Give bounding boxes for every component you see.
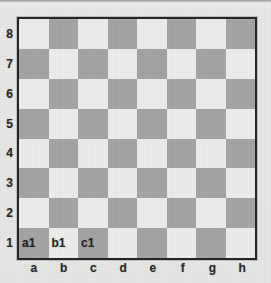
square-d3[interactable] bbox=[108, 168, 138, 198]
square-g1[interactable] bbox=[196, 228, 226, 258]
rank-labels: 87654321 bbox=[0, 19, 19, 258]
square-g7[interactable] bbox=[196, 49, 226, 79]
square-a2[interactable] bbox=[19, 198, 49, 228]
square-c6[interactable] bbox=[78, 79, 108, 109]
square-d4[interactable] bbox=[108, 139, 138, 169]
square-f6[interactable] bbox=[167, 79, 197, 109]
square-e4[interactable] bbox=[137, 139, 167, 169]
square-c7[interactable] bbox=[78, 49, 108, 79]
square-e6[interactable] bbox=[137, 79, 167, 109]
square-d8[interactable] bbox=[108, 19, 138, 49]
square-e2[interactable] bbox=[137, 198, 167, 228]
square-a5[interactable] bbox=[19, 109, 49, 139]
chessboard-grid: a1b1c1 bbox=[19, 19, 255, 258]
square-f2[interactable] bbox=[167, 198, 197, 228]
square-b3[interactable] bbox=[49, 168, 79, 198]
file-label-c: c bbox=[79, 260, 109, 276]
square-a1[interactable]: a1 bbox=[19, 228, 49, 258]
file-label-f: f bbox=[168, 260, 198, 276]
square-label-c1: c1 bbox=[81, 236, 94, 250]
square-d5[interactable] bbox=[108, 109, 138, 139]
square-f3[interactable] bbox=[167, 168, 197, 198]
rank-label-1: 1 bbox=[0, 228, 19, 258]
rank-label-6: 6 bbox=[0, 79, 19, 109]
square-b1[interactable]: b1 bbox=[49, 228, 79, 258]
square-b4[interactable] bbox=[49, 139, 79, 169]
square-c1[interactable]: c1 bbox=[78, 228, 108, 258]
square-d2[interactable] bbox=[108, 198, 138, 228]
square-label-b1: b1 bbox=[52, 236, 66, 250]
square-b5[interactable] bbox=[49, 109, 79, 139]
chessboard-frame: a1b1c1 bbox=[17, 17, 257, 260]
square-b7[interactable] bbox=[49, 49, 79, 79]
square-g5[interactable] bbox=[196, 109, 226, 139]
square-h7[interactable] bbox=[226, 49, 256, 79]
square-g6[interactable] bbox=[196, 79, 226, 109]
square-h5[interactable] bbox=[226, 109, 256, 139]
square-e5[interactable] bbox=[137, 109, 167, 139]
file-labels: abcdefgh bbox=[19, 260, 257, 276]
square-f8[interactable] bbox=[167, 19, 197, 49]
square-a7[interactable] bbox=[19, 49, 49, 79]
rank-label-3: 3 bbox=[0, 168, 19, 198]
file-label-b: b bbox=[49, 260, 79, 276]
square-h3[interactable] bbox=[226, 168, 256, 198]
rank-label-5: 5 bbox=[0, 109, 19, 139]
file-label-a: a bbox=[19, 260, 49, 276]
square-a4[interactable] bbox=[19, 139, 49, 169]
square-c8[interactable] bbox=[78, 19, 108, 49]
square-b8[interactable] bbox=[49, 19, 79, 49]
file-label-g: g bbox=[198, 260, 228, 276]
square-h6[interactable] bbox=[226, 79, 256, 109]
square-e8[interactable] bbox=[137, 19, 167, 49]
square-e1[interactable] bbox=[137, 228, 167, 258]
file-label-e: e bbox=[138, 260, 168, 276]
square-h2[interactable] bbox=[226, 198, 256, 228]
file-label-h: h bbox=[227, 260, 257, 276]
square-a8[interactable] bbox=[19, 19, 49, 49]
rank-label-7: 7 bbox=[0, 49, 19, 79]
scan-edge-line bbox=[0, 0, 271, 2]
square-f5[interactable] bbox=[167, 109, 197, 139]
square-g3[interactable] bbox=[196, 168, 226, 198]
square-e3[interactable] bbox=[137, 168, 167, 198]
square-g2[interactable] bbox=[196, 198, 226, 228]
square-e7[interactable] bbox=[137, 49, 167, 79]
square-a3[interactable] bbox=[19, 168, 49, 198]
square-h1[interactable] bbox=[226, 228, 256, 258]
square-a6[interactable] bbox=[19, 79, 49, 109]
rank-label-8: 8 bbox=[0, 19, 19, 49]
rank-label-2: 2 bbox=[0, 198, 19, 228]
square-c4[interactable] bbox=[78, 139, 108, 169]
square-d1[interactable] bbox=[108, 228, 138, 258]
square-g4[interactable] bbox=[196, 139, 226, 169]
square-h4[interactable] bbox=[226, 139, 256, 169]
square-h8[interactable] bbox=[226, 19, 256, 49]
square-f7[interactable] bbox=[167, 49, 197, 79]
square-c2[interactable] bbox=[78, 198, 108, 228]
square-c3[interactable] bbox=[78, 168, 108, 198]
square-c5[interactable] bbox=[78, 109, 108, 139]
square-d6[interactable] bbox=[108, 79, 138, 109]
square-label-a1: a1 bbox=[22, 236, 35, 250]
square-b2[interactable] bbox=[49, 198, 79, 228]
rank-label-4: 4 bbox=[0, 139, 19, 169]
square-b6[interactable] bbox=[49, 79, 79, 109]
square-f4[interactable] bbox=[167, 139, 197, 169]
square-g8[interactable] bbox=[196, 19, 226, 49]
file-label-d: d bbox=[108, 260, 138, 276]
square-d7[interactable] bbox=[108, 49, 138, 79]
square-f1[interactable] bbox=[167, 228, 197, 258]
